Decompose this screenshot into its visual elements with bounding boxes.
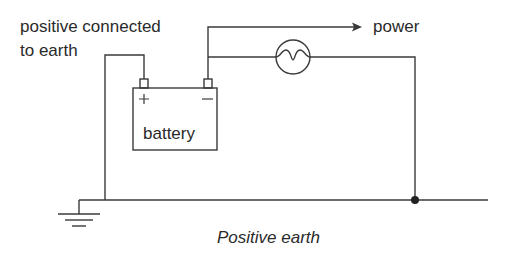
junction-dot-icon (411, 196, 419, 204)
positive-to-earth-wire (105, 55, 144, 200)
power-label: power (373, 17, 419, 37)
diagram-caption: Positive earth (217, 228, 320, 248)
positive-note-line2: to earth (20, 41, 78, 61)
circuit-diagram (0, 0, 510, 259)
lamp-return-wire (310, 57, 415, 200)
ground-icon (58, 200, 100, 226)
battery-label: battery (143, 124, 195, 144)
negative-terminal-post (204, 79, 212, 88)
lamp-icon (276, 40, 310, 74)
plus-sign-icon (139, 94, 149, 104)
positive-note-line1: positive connected (20, 17, 161, 37)
positive-terminal-post (140, 79, 148, 88)
